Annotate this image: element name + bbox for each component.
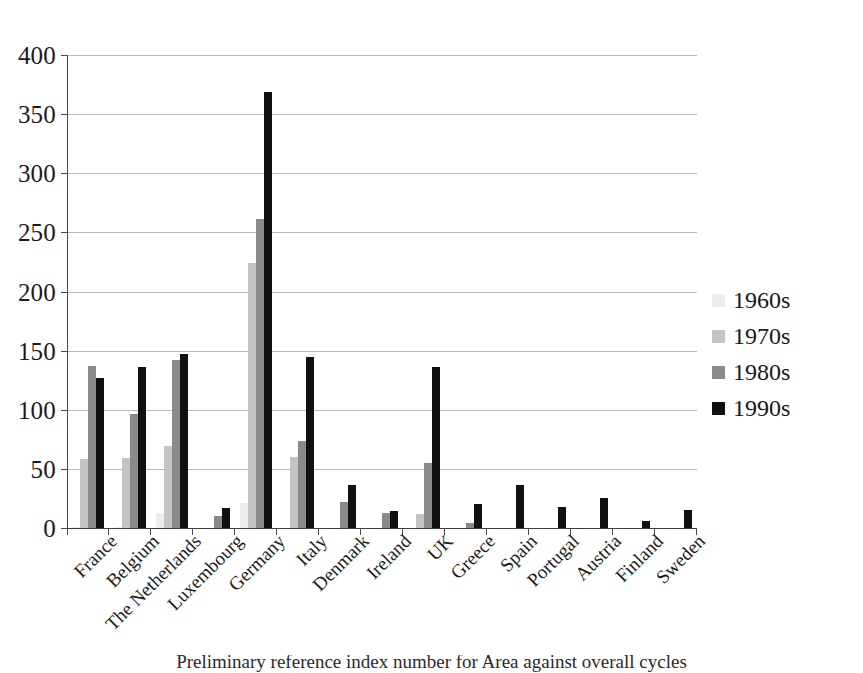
y-axis-tick-mark xyxy=(61,351,68,352)
bar xyxy=(306,357,314,528)
figure-caption-text: Preliminary reference index number for A… xyxy=(0,655,863,673)
y-axis-tick-mark xyxy=(61,410,68,411)
bar xyxy=(558,507,566,528)
legend-item: 1990s xyxy=(712,390,852,426)
bar xyxy=(290,457,298,528)
bar xyxy=(130,414,138,528)
bar xyxy=(222,508,230,528)
bar xyxy=(122,458,130,528)
bar xyxy=(382,513,390,528)
bar-group xyxy=(67,55,109,528)
legend-label: 1980s xyxy=(733,360,790,384)
bar-group xyxy=(529,55,571,528)
legend-item: 1970s xyxy=(712,318,852,354)
bar xyxy=(72,527,80,528)
bar xyxy=(114,527,122,528)
bar xyxy=(432,367,440,528)
legend-label: 1970s xyxy=(733,324,790,348)
y-axis-tick-label: 350 xyxy=(18,102,56,127)
bar xyxy=(684,510,692,528)
y-axis-tick-mark xyxy=(61,55,68,56)
legend-swatch xyxy=(712,294,725,307)
bar-chart-figure: 050100150200250300350400 FranceBelgiumTh… xyxy=(0,0,863,673)
bar-group xyxy=(109,55,151,528)
y-axis-tick-label: 100 xyxy=(18,397,56,422)
bar xyxy=(340,502,348,528)
x-axis-category-label: Greece xyxy=(447,531,498,582)
legend-item: 1960s xyxy=(712,282,852,318)
x-axis-category-label: Ireland xyxy=(363,531,414,582)
bar xyxy=(214,516,222,528)
bar xyxy=(88,366,96,528)
bar xyxy=(600,498,608,528)
bar xyxy=(256,219,264,528)
bar-group xyxy=(235,55,277,528)
bar-group xyxy=(403,55,445,528)
y-axis-tick-label: 300 xyxy=(18,161,56,186)
y-axis-tick-label: 0 xyxy=(43,516,56,541)
bar-group xyxy=(361,55,403,528)
bar-group xyxy=(445,55,487,528)
y-axis-tick-label: 50 xyxy=(31,456,56,481)
bar-group xyxy=(571,55,613,528)
bar xyxy=(156,513,164,528)
bar xyxy=(80,459,88,528)
bar-group xyxy=(655,55,697,528)
y-axis-tick-labels: 050100150200250300350400 xyxy=(0,55,56,528)
bar xyxy=(138,367,146,528)
bar-groups xyxy=(67,55,697,528)
y-axis-tick-label: 150 xyxy=(18,338,56,363)
bar xyxy=(264,92,272,528)
bar xyxy=(298,441,306,529)
legend-label: 1990s xyxy=(733,396,790,420)
bar xyxy=(240,503,248,528)
legend-swatch xyxy=(712,330,725,343)
legend-label: 1960s xyxy=(733,288,790,312)
legend-swatch xyxy=(712,366,725,379)
bar xyxy=(248,263,256,528)
y-axis-tick-label: 250 xyxy=(18,220,56,245)
bar xyxy=(416,514,424,528)
x-axis-category-labels: FranceBelgiumThe NetherlandsLuxembourgGe… xyxy=(67,531,697,646)
legend-item: 1980s xyxy=(712,354,852,390)
bar xyxy=(348,485,356,528)
y-axis-tick-label: 400 xyxy=(18,43,56,68)
bar-group xyxy=(487,55,529,528)
bar xyxy=(424,463,432,528)
bar xyxy=(474,504,482,528)
y-axis-tick-mark xyxy=(61,528,68,529)
y-axis-tick-mark xyxy=(61,469,68,470)
bar xyxy=(390,511,398,528)
bar-group xyxy=(613,55,655,528)
bar-group xyxy=(151,55,193,528)
y-axis-tick-mark xyxy=(61,232,68,233)
x-axis-category-label: UK xyxy=(423,531,456,564)
bar xyxy=(164,446,172,528)
figure-caption: Preliminary reference index number for A… xyxy=(0,655,863,673)
y-axis-tick-label: 200 xyxy=(18,279,56,304)
bar xyxy=(642,521,650,528)
chart-legend: 1960s1970s1980s1990s xyxy=(712,282,852,426)
bar xyxy=(180,354,188,528)
bar xyxy=(96,378,104,528)
y-axis-tick-mark xyxy=(61,114,68,115)
bar xyxy=(466,523,474,528)
bar-group xyxy=(319,55,361,528)
x-axis-baseline xyxy=(67,528,697,529)
bar-group xyxy=(193,55,235,528)
bar xyxy=(516,485,524,528)
bar-group xyxy=(277,55,319,528)
y-axis-tick-mark xyxy=(61,173,68,174)
legend-swatch xyxy=(712,402,725,415)
y-axis-tick-mark xyxy=(61,292,68,293)
bar xyxy=(172,360,180,528)
